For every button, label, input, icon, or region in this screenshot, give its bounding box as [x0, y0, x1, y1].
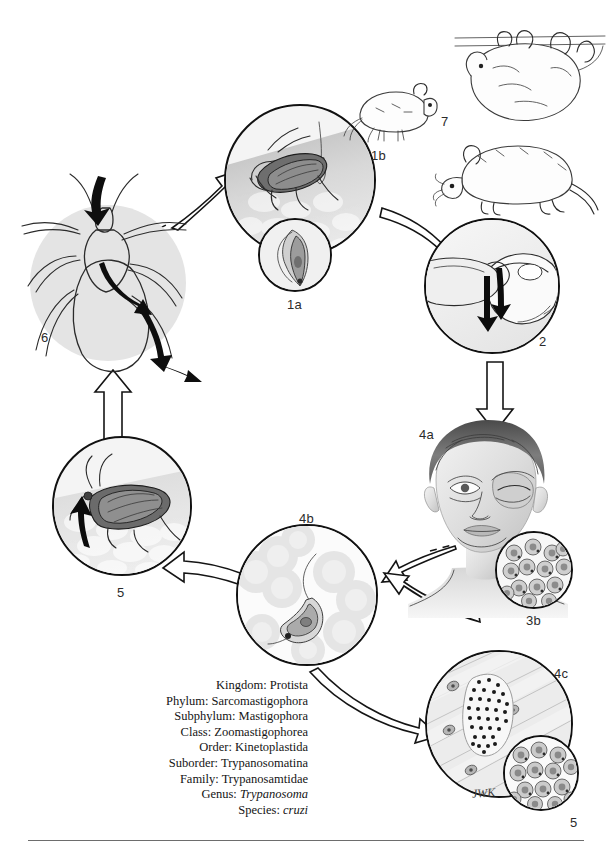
illustration-mouse-small: [340, 78, 440, 148]
panel-stage-4a-trypomastigote-blood: [236, 524, 378, 666]
panel-stage-3a-amastigotes: [495, 531, 573, 609]
stage-label-3a: 3b: [526, 613, 541, 628]
stage-label-1b: 1b: [371, 148, 386, 163]
taxonomy-genus: Genus: Trypanosoma: [8, 787, 308, 803]
stage-label-2: 2: [539, 334, 546, 349]
taxonomy-list: Kingdom: Protista Phylum: Sarcomastigoph…: [8, 678, 308, 818]
panel-stage-4c-amastigotes: [503, 735, 579, 811]
stage-label-6: 6: [41, 330, 48, 345]
taxonomy-class: Class: Zoomastigophorea: [8, 725, 308, 741]
stage-label-1a: 1a: [287, 297, 302, 312]
taxonomy-subphylum: Subphylum: Mastigophora: [8, 709, 308, 725]
figure-canvas: 6: [0, 0, 611, 857]
taxonomy-species-rank: Species:: [238, 803, 280, 817]
stage-label-4b: 4c: [554, 666, 568, 681]
arrow-4a-to-4b: [310, 668, 439, 743]
taxonomy-order: Order: Kinetoplastida: [8, 740, 308, 756]
panel-stage-6-bug-hindgut: [6, 168, 206, 388]
illustration-rat: [432, 128, 602, 218]
taxonomy-species: Species: cruzi: [8, 803, 308, 819]
stage-label-5-final: 5: [117, 585, 124, 600]
artist-signature: JWK: [472, 785, 496, 802]
taxonomy-suborder: Suborder: Trypanosomatina: [8, 756, 308, 772]
taxonomy-genus-name: Trypanosoma: [240, 787, 308, 801]
footer-divider: [28, 840, 584, 841]
stage-label-4c: 5: [570, 815, 577, 830]
illustration-opossum-hanging: [455, 24, 605, 134]
taxonomy-kingdom: Kingdom: Protista: [8, 678, 308, 694]
stage-label-3b: 4a: [419, 427, 434, 442]
stage-label-7: 7: [441, 114, 448, 129]
stage-label-4a: 4b: [299, 511, 314, 526]
taxonomy-genus-rank: Genus:: [201, 787, 236, 801]
taxonomy-phylum: Phylum: Sarcomastigophora: [8, 694, 308, 710]
panel-stage-5-bug-ingests-blood: [52, 436, 192, 576]
taxonomy-family: Family: Trypanosamtidae: [8, 772, 308, 788]
panel-stage-1a-metacyclic-trypomastigote: [258, 218, 332, 292]
taxonomy-species-name: cruzi: [283, 803, 308, 817]
